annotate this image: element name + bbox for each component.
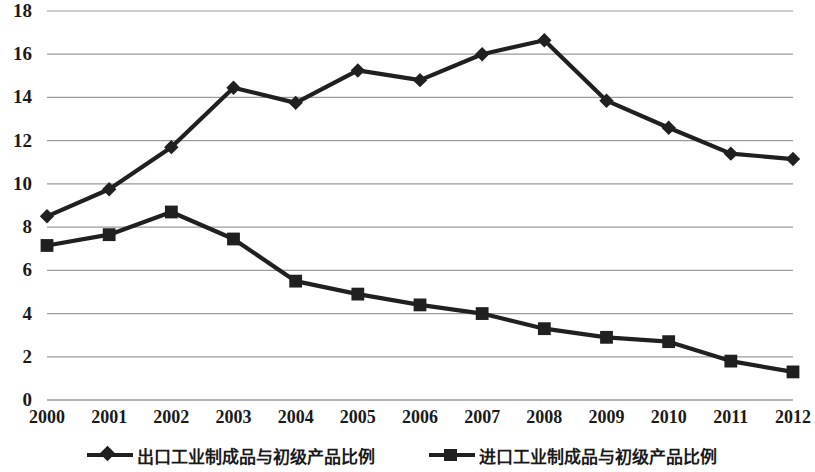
legend-item-import: 进口工业制成品与初级产品比例: [429, 443, 717, 468]
data-point: [103, 228, 116, 241]
x-axis-tick-label: 2010: [639, 408, 699, 426]
series-line-export: [47, 40, 793, 216]
x-axis-tick-label: 2009: [577, 408, 637, 426]
y-axis-tick-label: 4: [2, 304, 32, 323]
x-axis-tick-label: 2004: [266, 408, 326, 426]
diamond-marker-icon: [87, 447, 133, 463]
data-point: [662, 335, 675, 348]
data-point: [786, 152, 800, 166]
x-axis-tick-label: 2003: [204, 408, 264, 426]
data-point: [787, 366, 800, 379]
data-point: [724, 355, 737, 368]
x-axis-tick-label: 2011: [701, 408, 761, 426]
data-point: [351, 63, 365, 77]
legend-item-export: 出口工业制成品与初级产品比例: [87, 443, 375, 468]
square-marker-icon: [429, 447, 475, 463]
x-axis-tick-label: 2006: [390, 408, 450, 426]
series-line-import: [47, 212, 793, 372]
data-point: [661, 121, 675, 135]
data-point: [414, 299, 427, 312]
x-axis-tick-label: 2008: [514, 408, 574, 426]
y-axis-tick-label: 6: [2, 260, 32, 279]
legend-label-import: 进口工业制成品与初级产品比例: [479, 443, 717, 468]
data-point: [413, 73, 427, 87]
data-point: [351, 288, 364, 301]
chart-legend: 出口工业制成品与初级产品比例 进口工业制成品与初级产品比例: [0, 440, 803, 470]
data-point: [41, 239, 54, 252]
y-axis-tick-label: 16: [2, 44, 32, 63]
y-axis-tick-label: 8: [2, 217, 32, 236]
y-axis-tick-label: 0: [2, 390, 32, 409]
data-point: [538, 322, 551, 335]
data-point: [600, 331, 613, 344]
data-point: [476, 307, 489, 320]
y-axis-tick-label: 2: [2, 347, 32, 366]
x-axis-tick-label: 2012: [763, 408, 815, 426]
x-axis-tick-label: 2001: [79, 408, 139, 426]
x-axis-tick-label: 2005: [328, 408, 388, 426]
y-axis-tick-label: 14: [2, 87, 32, 106]
y-axis-tick-label: 18: [2, 1, 32, 20]
data-point: [289, 275, 302, 288]
data-point: [724, 146, 738, 160]
legend-label-export: 出口工业制成品与初级产品比例: [137, 443, 375, 468]
y-axis-tick-label: 12: [2, 131, 32, 150]
data-point: [475, 47, 489, 61]
data-point: [165, 206, 178, 219]
x-axis-tick-label: 2002: [141, 408, 201, 426]
x-axis-tick-label: 2000: [17, 408, 77, 426]
data-point: [40, 209, 54, 223]
y-axis-tick-label: 10: [2, 174, 32, 193]
data-point: [227, 233, 240, 246]
x-axis-tick-label: 2007: [452, 408, 512, 426]
